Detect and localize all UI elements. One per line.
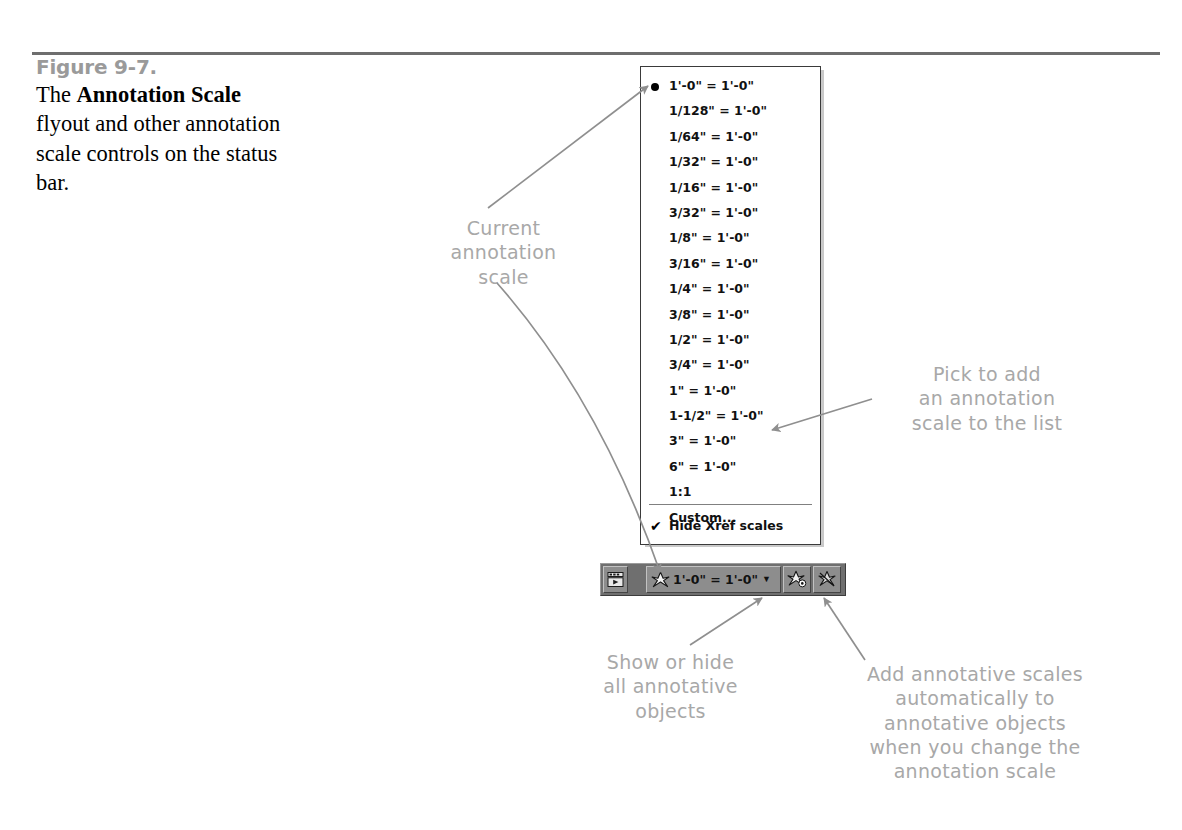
annotation-current-scale: Current annotation scale	[416, 216, 591, 289]
figure-number: Figure 9-7.	[36, 56, 296, 78]
scale-list-item[interactable]: 1'-0" = 1'-0"	[641, 73, 820, 98]
scale-list-item[interactable]: 1" = 1'-0"	[641, 378, 820, 403]
annotation-show-hide: Show or hide all annotative objects	[563, 650, 778, 723]
scale-list-item[interactable]: 1/2" = 1'-0"	[641, 327, 820, 352]
scale-list-item-label: 1/16" = 1'-0"	[669, 180, 758, 195]
scale-list-item[interactable]: 3" = 1'-0"	[641, 428, 820, 453]
leader-show-to-visibility	[690, 598, 762, 645]
scale-list-item-label: 3" = 1'-0"	[669, 433, 736, 448]
scale-list-item[interactable]: 1-1/2" = 1'-0"	[641, 403, 820, 428]
annotation-auto-add: Add annotative scales automatically to a…	[815, 662, 1135, 784]
scale-list-item[interactable]: 3/8" = 1'-0"	[641, 302, 820, 327]
scale-list-item-label: 1:1	[669, 484, 691, 499]
scale-list-item-label: 1/128" = 1'-0"	[669, 103, 767, 118]
leader-current-to-bullet	[488, 86, 648, 208]
clean-screen-button[interactable]	[603, 566, 628, 593]
leader-current-to-statusbar	[497, 283, 660, 572]
auto-add-scales-button[interactable]	[813, 566, 841, 593]
status-bar-gap	[630, 566, 644, 593]
annotation-visibility-button[interactable]	[783, 566, 811, 593]
scale-list-item[interactable]: 3/4" = 1'-0"	[641, 352, 820, 377]
annotation-scale-value: 1'-0" = 1'-0"	[673, 572, 758, 587]
scale-list-item[interactable]: 6" = 1'-0"	[641, 454, 820, 479]
annotative-visibility-icon	[787, 570, 807, 589]
clean-screen-icon	[607, 572, 624, 587]
figure-caption: Figure 9-7. The Annotation Scale flyout …	[36, 56, 296, 198]
scale-list-item-label: 1" = 1'-0"	[669, 383, 736, 398]
hide-xref-scales-label: Hide Xref scales	[669, 518, 783, 533]
scale-list-item-label: 3/32" = 1'-0"	[669, 205, 758, 220]
caption-post: flyout and other annotation scale contro…	[36, 111, 280, 195]
scale-list-item[interactable]: 1/16" = 1'-0"	[641, 175, 820, 200]
auto-add-scales-icon	[817, 570, 837, 589]
chevron-down-icon[interactable]: ▼	[762, 575, 771, 584]
hide-xref-scales-option[interactable]: ✔ Hide Xref scales	[641, 513, 820, 539]
scale-list-item-label: 3/4" = 1'-0"	[669, 357, 750, 372]
scale-list-item[interactable]: 1:1	[641, 479, 820, 504]
scale-list-item-label: 6" = 1'-0"	[669, 459, 736, 474]
status-bar: 1'-0" = 1'-0" ▼	[600, 563, 846, 596]
leader-add-to-autoscale	[824, 598, 865, 660]
annotation-scale-icon	[651, 571, 670, 589]
scale-list: 1'-0" = 1'-0"1/128" = 1'-0"1/64" = 1'-0"…	[641, 67, 820, 530]
scale-list-item-label: 1-1/2" = 1'-0"	[669, 408, 763, 423]
scale-list-item[interactable]: 3/32" = 1'-0"	[641, 200, 820, 225]
checkmark-icon: ✔	[650, 513, 664, 539]
scale-list-item-label: 1/8" = 1'-0"	[669, 230, 750, 245]
annotation-scale-button[interactable]: 1'-0" = 1'-0" ▼	[646, 566, 781, 593]
scale-list-item[interactable]: 3/16" = 1'-0"	[641, 251, 820, 276]
caption-text: The Annotation Scale flyout and other an…	[36, 80, 296, 198]
scale-list-item-label: 3/16" = 1'-0"	[669, 256, 758, 271]
caption-bold-annotation: Annotation	[77, 82, 186, 107]
scale-list-item-label: 1/4" = 1'-0"	[669, 281, 750, 296]
scale-list-item-label: 1/64" = 1'-0"	[669, 129, 758, 144]
scale-list-item[interactable]: 1/32" = 1'-0"	[641, 149, 820, 174]
scale-list-item[interactable]: 1/4" = 1'-0"	[641, 276, 820, 301]
annotation-pick-to-add: Pick to add an annotation scale to the l…	[872, 362, 1102, 435]
scale-list-item-label: 1/2" = 1'-0"	[669, 332, 750, 347]
scale-list-item-label: 3/8" = 1'-0"	[669, 307, 750, 322]
caption-pre: The	[36, 82, 77, 107]
scale-list-item[interactable]: 1/8" = 1'-0"	[641, 225, 820, 250]
figure-top-rule	[32, 52, 1160, 55]
annotation-scale-flyout[interactable]: 1'-0" = 1'-0"1/128" = 1'-0"1/64" = 1'-0"…	[640, 66, 821, 545]
scale-list-item[interactable]: 1/128" = 1'-0"	[641, 98, 820, 123]
caption-bold-scale: Scale	[191, 82, 241, 107]
scale-list-item[interactable]: 1/64" = 1'-0"	[641, 124, 820, 149]
scale-list-item-label: 1'-0" = 1'-0"	[669, 78, 754, 93]
scale-list-item-label: 1/32" = 1'-0"	[669, 154, 758, 169]
flyout-separator	[649, 504, 812, 505]
